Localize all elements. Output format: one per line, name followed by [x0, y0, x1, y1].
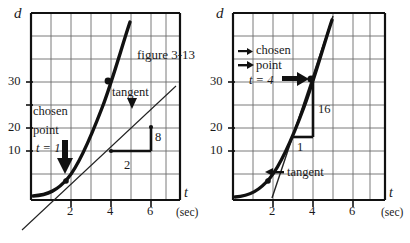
right-rise-label: 16: [318, 103, 331, 116]
right-chosen-label: chosen: [256, 44, 291, 57]
right-chosen-point-arrow: [282, 72, 309, 86]
right-tangent-label: tangent: [287, 166, 324, 179]
left-run-label: 2: [124, 159, 130, 172]
left-rise-label: 8: [155, 131, 161, 144]
left-y-tick-20: 20: [8, 121, 21, 134]
left-y-axis-label: d: [14, 6, 22, 21]
left-units-label: (sec): [176, 207, 198, 219]
left-x-tick-6: 6: [147, 205, 153, 218]
figure-3-13-container: d 30 20 10 2 4 6 t (sec) chosen point t …: [0, 0, 410, 243]
right-units-label: (sec): [381, 207, 403, 219]
left-tangent-label: tangent: [112, 86, 149, 99]
figure-caption: figure 3-13: [137, 48, 195, 61]
left-y-tick-10: 10: [8, 144, 21, 157]
right-run-label: 1: [297, 141, 303, 154]
left-x-tick-2: 2: [67, 205, 73, 218]
right-point-label: point: [256, 59, 282, 72]
right-chosen-label-arrow: [238, 48, 253, 55]
left-t-value-label: t = 1: [36, 142, 60, 155]
left-chosen-label: chosen: [33, 105, 68, 118]
left-x-axis-label: t: [184, 186, 188, 200]
right-x-tick-2: 2: [269, 205, 275, 218]
right-t-value-label: t = 4: [249, 74, 273, 87]
right-curve-marker-dot: [265, 178, 271, 184]
right-x-tick-6: 6: [349, 205, 355, 218]
left-point-label: point: [33, 124, 59, 137]
right-y-tick-10: 10: [210, 144, 223, 157]
left-x-tick-4: 4: [107, 205, 113, 218]
right-y-axis-label: d: [216, 6, 224, 21]
right-point-label-arrow: [238, 61, 254, 69]
left-y-tick-30: 30: [8, 75, 21, 88]
right-x-axis-label: t: [389, 186, 393, 200]
right-y-tick-30: 30: [210, 75, 223, 88]
right-y-tick-20: 20: [210, 121, 223, 134]
right-x-tick-4: 4: [309, 205, 315, 218]
